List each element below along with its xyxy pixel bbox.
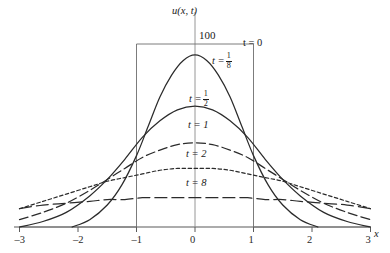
fraction-one-half: 12 bbox=[203, 90, 209, 109]
x-tick-label-6: 3 bbox=[366, 235, 371, 246]
curve-label-t8: t = 8 bbox=[186, 178, 207, 189]
x-axis-label: x bbox=[374, 229, 379, 240]
heat-equation-plot: u(x, t) x 100 –3–2–10123 t = 0 t =18 t =… bbox=[0, 0, 390, 253]
curve-label-t-one-eighth: t =18 bbox=[212, 52, 232, 71]
y-axis-label: u(x, t) bbox=[172, 6, 197, 17]
curve-label-t-one-half-lead: t = bbox=[189, 93, 202, 104]
curve-label-t1: t = 1 bbox=[188, 120, 209, 131]
x-tick-label-3: 0 bbox=[190, 235, 195, 246]
fraction-one-eighth: 18 bbox=[226, 52, 232, 71]
curve-label-t2: t = 2 bbox=[186, 149, 207, 160]
y-axis-label-text: u(x, t) bbox=[172, 5, 197, 16]
x-axis-ticks bbox=[20, 227, 371, 232]
curve-label-t0: t = 0 bbox=[243, 38, 262, 49]
curve-label-t-one-eighth-lead: t = bbox=[212, 55, 225, 66]
x-tick-label-1: –2 bbox=[73, 235, 84, 246]
x-tick-label-5: 2 bbox=[307, 235, 312, 246]
x-tick-label-4: 1 bbox=[249, 235, 254, 246]
curve-label-t-one-half: t =12 bbox=[189, 90, 209, 109]
x-tick-label-0: –3 bbox=[15, 235, 26, 246]
x-tick-label-2: –1 bbox=[132, 235, 143, 246]
peak-value-label: 100 bbox=[199, 30, 216, 41]
